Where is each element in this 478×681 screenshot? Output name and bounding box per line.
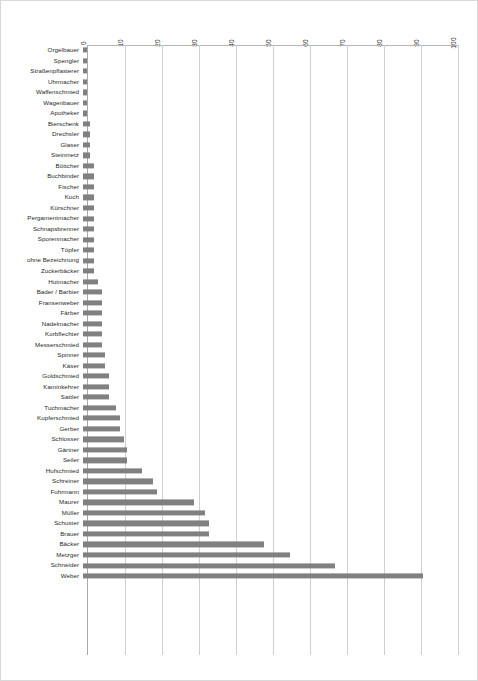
- bar-cell: [83, 371, 478, 382]
- bar-row: Wagenbauer: [1, 98, 478, 109]
- bar: [83, 300, 102, 305]
- bar-cell: [83, 255, 478, 266]
- category-label: Steinmetz: [1, 152, 83, 158]
- category-label: Schnapsbrenner: [1, 226, 83, 232]
- bar-cell: [83, 455, 478, 466]
- bar-cell: [83, 192, 478, 203]
- category-label: Waffenschmied: [1, 89, 83, 95]
- bar-row: ohne Bezeichnung: [1, 255, 478, 266]
- category-label: Tuchmacher: [1, 405, 83, 411]
- bar: [83, 142, 90, 147]
- bar-row: Zuckerbäcker: [1, 266, 478, 277]
- category-label: Schlosser: [1, 436, 83, 442]
- bar: [83, 100, 87, 105]
- category-label: Weber: [1, 573, 83, 579]
- category-label: Bäcker: [1, 541, 83, 547]
- category-label: Glaser: [1, 142, 83, 148]
- bar: [83, 48, 87, 53]
- bar: [83, 58, 87, 63]
- bar: [83, 90, 87, 95]
- bar-cell: [83, 350, 478, 361]
- bar-cell: [83, 529, 478, 540]
- bar-row: Schnapsbrenner: [1, 224, 478, 235]
- bar-row: Uhrmacher: [1, 77, 478, 88]
- bar: [83, 69, 87, 74]
- category-label: Fransenweber: [1, 300, 83, 306]
- bar-row: Böttcher: [1, 161, 478, 172]
- bar: [83, 163, 94, 168]
- category-label: Färber: [1, 310, 83, 316]
- bar-row: Bierschenk: [1, 119, 478, 130]
- bar-cell: [83, 392, 478, 403]
- bar-cell: [83, 476, 478, 487]
- bar: [83, 479, 153, 484]
- bar: [83, 458, 127, 463]
- bar-row: Apotheker: [1, 108, 478, 119]
- category-label: Kupferschmied: [1, 415, 83, 421]
- bar-row: Käser: [1, 360, 478, 371]
- bar-row: Buchbinder: [1, 171, 478, 182]
- bar-cell: [83, 66, 478, 77]
- bar-cell: [83, 360, 478, 371]
- bar-row: Glaser: [1, 140, 478, 151]
- bar-cell: [83, 213, 478, 224]
- bar: [83, 437, 124, 442]
- category-label: Drechsler: [1, 131, 83, 137]
- bar: [83, 153, 90, 158]
- bar: [83, 426, 120, 431]
- bar: [83, 395, 109, 400]
- bar-row: Bader / Barbier: [1, 287, 478, 298]
- bar: [83, 552, 290, 557]
- category-label: Bierschenk: [1, 121, 83, 127]
- bar-row: Kaminkehrer: [1, 382, 478, 393]
- bar-cell: [83, 508, 478, 519]
- category-label: ohne Bezeichnung: [1, 257, 83, 263]
- category-label: Gärtner: [1, 447, 83, 453]
- category-label: Fuhrmann: [1, 489, 83, 495]
- bar: [83, 447, 127, 452]
- bar-row: Fischer: [1, 182, 478, 193]
- category-label: Käser: [1, 363, 83, 369]
- bar-cell: [83, 98, 478, 109]
- bar-row: Weber: [1, 571, 478, 582]
- bar-cell: [83, 308, 478, 319]
- category-label: Apotheker: [1, 110, 83, 116]
- bar-cell: [83, 150, 478, 161]
- bar: [83, 342, 102, 347]
- bar: [83, 184, 94, 189]
- bar-cell: [83, 518, 478, 529]
- bar-row: Müller: [1, 508, 478, 519]
- bar-row: Sattler: [1, 392, 478, 403]
- bar-row: Gerber: [1, 424, 478, 435]
- bar-cell: [83, 413, 478, 424]
- bar-cell: [83, 129, 478, 140]
- bar-row: Fransenweber: [1, 297, 478, 308]
- bar-cell: [83, 224, 478, 235]
- bar-cell: [83, 56, 478, 67]
- bar-cell: [83, 182, 478, 193]
- category-label: Hufschmied: [1, 468, 83, 474]
- bar-cell: [83, 329, 478, 340]
- bar: [83, 573, 423, 578]
- bar-row: Maurer: [1, 497, 478, 508]
- category-label: Spengler: [1, 58, 83, 64]
- bar-row: Seiler: [1, 455, 478, 466]
- bar: [83, 216, 94, 221]
- category-label: Hutmacher: [1, 279, 83, 285]
- category-label: Seiler: [1, 457, 83, 463]
- category-label: Sporenmacher: [1, 236, 83, 242]
- bar-row: Straßenpflasterer: [1, 66, 478, 77]
- bar-cell: [83, 203, 478, 214]
- category-label: Schreiner: [1, 478, 83, 484]
- bar-row: Brauer: [1, 529, 478, 540]
- bar-cell: [83, 245, 478, 256]
- bar: [83, 79, 87, 84]
- bar: [83, 531, 209, 536]
- category-label: Brauer: [1, 531, 83, 537]
- bar-cell: [83, 434, 478, 445]
- bar-cell: [83, 287, 478, 298]
- bar-cell: [83, 45, 478, 56]
- bar-rows: OrgelbauerSpenglerStraßenpflastererUhrma…: [1, 45, 478, 655]
- bar-cell: [83, 571, 478, 582]
- bar: [83, 542, 264, 547]
